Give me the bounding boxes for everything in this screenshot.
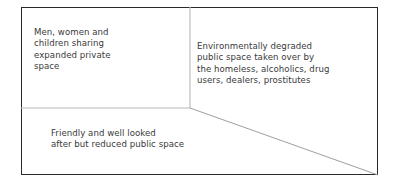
region-label-expanded-private-space: Men, women and children sharing expanded… <box>34 27 184 72</box>
region-label-reduced-public-space: Friendly and well looked after but reduc… <box>51 128 251 151</box>
diagram-canvas: Men, women and children sharing expanded… <box>0 0 400 186</box>
region-label-degraded-public-space: Environmentally degraded public space ta… <box>197 41 375 86</box>
